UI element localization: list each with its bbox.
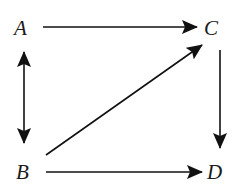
directed-graph-diagram: A C B D bbox=[0, 0, 242, 187]
node-a-label: A bbox=[12, 16, 27, 40]
node-b-label: B bbox=[16, 160, 29, 184]
edge-b-to-c-arrow bbox=[46, 45, 202, 155]
node-c-label: C bbox=[204, 16, 219, 40]
node-d-label: D bbox=[206, 160, 222, 184]
